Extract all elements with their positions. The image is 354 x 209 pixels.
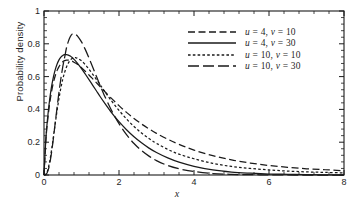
- legend-item: u = 10, v = 10: [188, 49, 301, 61]
- legend-label: u = 4, v = 10: [245, 27, 296, 37]
- series-curve-1: [44, 55, 344, 175]
- legend-line-swatch: [188, 38, 236, 48]
- legend-line-swatch: [188, 27, 236, 37]
- series-curve-0: [44, 60, 344, 175]
- legend-label: u = 10, v = 10: [245, 50, 301, 60]
- legend-label: u = 10, v = 30: [245, 61, 301, 71]
- chart-legend: u = 4, v = 10u = 4, v = 30u = 10, v = 10…: [188, 26, 301, 72]
- legend-label: u = 4, v = 30: [245, 38, 296, 48]
- legend-item: u = 4, v = 10: [188, 26, 301, 38]
- legend-line-swatch: [188, 50, 236, 60]
- legend-line-swatch: [188, 61, 236, 71]
- plot-area: [0, 0, 354, 209]
- f-distribution-chart: Probability density x 00.20.40.60.81 024…: [0, 0, 354, 209]
- legend-item: u = 10, v = 30: [188, 61, 301, 73]
- legend-item: u = 4, v = 30: [188, 38, 301, 50]
